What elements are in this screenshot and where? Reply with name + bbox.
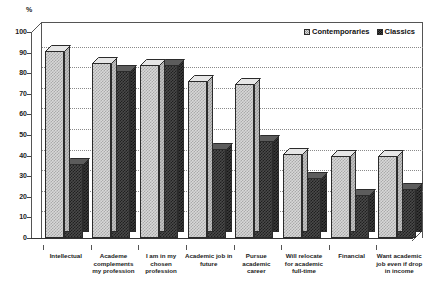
bar-side-face [273,136,279,232]
bar-side-face [111,58,117,232]
x-axis-tick-mark [329,245,330,250]
x-axis-tick-mark [91,245,92,250]
bar-side-face [159,60,165,232]
x-axis-tick-mark [138,245,139,250]
bar-contemporaries [45,51,64,238]
bar-top-face [188,75,207,81]
y-axis-tick-label: 60 [19,110,27,117]
bar-contemporaries [140,65,159,238]
bar-front-face [235,84,254,239]
x-axis-category-label-line: for academic [276,260,332,268]
y-axis-tick-label: 70 [19,90,27,97]
bars-layer [31,22,424,247]
y-axis-unit-label: % [26,6,32,13]
x-axis-category-label-line: Want academic [371,252,427,260]
bar-side-face [64,46,70,232]
x-axis-category-label: Want academicjob even if dropin income [371,252,427,275]
bar-front-face [188,81,207,238]
x-axis-tick-mark [186,245,187,250]
x-axis-category-label-line: full-time [276,267,332,275]
bar-chart: % 0102030405060708090100 Contemporaries … [0,0,433,307]
y-axis-tick-label: 20 [19,193,27,200]
bar-top-face [92,57,111,63]
bar-top-face [331,150,350,156]
bar-top-face [378,150,397,156]
y-axis-tick-label: 40 [19,152,27,159]
bar-side-face [83,159,89,232]
y-axis-tick-label: 100 [15,28,27,35]
bar-side-face [369,190,375,232]
y-axis-tick-label: 10 [19,213,27,220]
bar-side-face [178,60,184,232]
bar-side-face [397,151,403,232]
bar-side-face [130,66,136,232]
bar-side-face [207,76,213,232]
x-axis-tick-mark [281,245,282,250]
chart-legend: Contemporaries Classics [304,27,415,36]
legend-item-classics: Classics [377,27,415,36]
x-axis-tick-mark [376,245,377,250]
y-axis-tick-labels: 0102030405060708090100 [0,22,27,247]
x-axis-category-label-line: profession [133,267,189,275]
bar-front-face [92,63,111,238]
legend-label-classics: Classics [385,27,415,36]
plot-area [31,22,424,247]
bar-side-face [350,151,356,232]
bar-contemporaries [331,156,350,238]
bar-top-face [283,148,302,154]
bar-top-face [235,78,254,84]
bar-side-face [226,144,232,232]
x-axis-category-labels: IntellectualAcademecomplementsmy profess… [31,252,431,304]
bar-top-face [45,45,64,51]
bar-front-face [45,51,64,238]
bar-contemporaries [188,81,207,238]
bar-front-face [331,156,350,238]
bar-contemporaries [235,84,254,239]
x-axis-tick-mark [43,245,44,250]
bar-side-face [321,173,327,232]
legend-label-contemporaries: Contemporaries [312,27,370,36]
legend-item-contemporaries: Contemporaries [304,27,370,36]
y-axis-tick-label: 90 [19,49,27,56]
bar-side-face [302,149,308,232]
y-axis-tick-label: 50 [19,131,27,138]
bar-contemporaries [283,154,302,238]
bar-front-face [283,154,302,238]
bar-front-face [378,156,397,238]
y-axis-tick-label: 80 [19,69,27,76]
bar-side-face [416,184,422,232]
legend-swatch-icon-contemporaries [304,29,310,35]
x-axis-category-label-line: job even if drop [371,260,427,268]
legend-swatch-icon-classics [377,29,383,35]
bar-front-face [140,65,159,238]
bar-contemporaries [92,63,111,238]
x-axis-category-label-line: in income [371,267,427,275]
y-axis-tick-label: 30 [19,172,27,179]
bar-side-face [254,79,260,233]
bar-top-face [140,59,159,65]
x-axis-tick-mark [234,245,235,250]
bar-contemporaries [378,156,397,238]
